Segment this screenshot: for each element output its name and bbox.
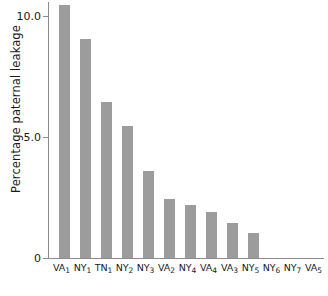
bar[interactable] <box>185 205 196 258</box>
bar-slot <box>76 1 97 258</box>
bar-slot <box>307 1 328 258</box>
bar[interactable] <box>206 212 217 258</box>
y-axis-tick-label: 5.0 <box>24 130 42 143</box>
y-axis-tick-label: 0 <box>34 252 41 265</box>
bar[interactable] <box>164 199 175 258</box>
bar-slot <box>55 1 76 258</box>
bar[interactable] <box>227 223 238 258</box>
bar-slot <box>265 1 286 258</box>
bar-chart: Percentage paternal leakage 10.05.00 VA1… <box>0 0 328 296</box>
bar-slot <box>97 1 118 258</box>
bar-slot <box>139 1 160 258</box>
bar[interactable] <box>59 5 70 258</box>
bar-slot <box>118 1 139 258</box>
bar-slot <box>244 1 265 258</box>
bars-layer <box>48 0 324 259</box>
bar[interactable] <box>122 126 133 258</box>
bar[interactable] <box>101 102 112 258</box>
y-axis-title: Percentage paternal leakage <box>9 9 23 209</box>
x-axis-label: VA5 <box>299 262 328 273</box>
bar-slot <box>160 1 181 258</box>
bar[interactable] <box>248 233 259 258</box>
plot-area: 10.05.00 <box>48 0 326 259</box>
bar[interactable] <box>143 171 154 258</box>
bar-slot <box>181 1 202 258</box>
bar-slot <box>202 1 223 258</box>
y-axis-tick-label: 10.0 <box>17 9 42 22</box>
x-axis-labels: VA1NY1TN1NY2NY3VA2NY4VA4VA3NY5NY6NY7VA5 <box>48 262 326 284</box>
bar[interactable] <box>80 39 91 258</box>
bar-slot <box>223 1 244 258</box>
bar-slot <box>286 1 307 258</box>
